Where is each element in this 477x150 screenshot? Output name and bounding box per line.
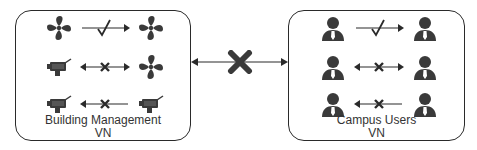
allowed-arrow-right <box>354 19 404 37</box>
fan-icon <box>46 15 72 41</box>
policy-row-camera-fan <box>46 54 166 80</box>
fan-icon <box>138 15 164 41</box>
policy-row-user-user-bidirectional <box>320 54 440 80</box>
inter-vn-blocked-link <box>191 50 288 74</box>
campus-users-vn-box: Campus Users VN <box>288 10 465 141</box>
vn-subtitle: VN <box>289 127 464 140</box>
user-icon <box>412 54 438 80</box>
camera-icon <box>46 54 72 80</box>
policy-row-user-to-user <box>320 15 440 41</box>
blocked-arrow-bidirectional <box>354 58 404 76</box>
blocked-arrow-left <box>354 95 404 113</box>
blocked-arrow-bidirectional <box>80 58 130 76</box>
user-icon <box>412 15 438 41</box>
building-management-vn-box: Building Management VN <box>15 10 191 141</box>
user-icon <box>320 15 346 41</box>
policy-row-fan-to-fan <box>46 15 166 41</box>
user-icon <box>320 54 346 80</box>
blocked-arrow-left <box>80 95 130 113</box>
vn-subtitle: VN <box>16 127 190 140</box>
fan-icon <box>138 54 164 80</box>
allowed-arrow-right <box>80 19 130 37</box>
